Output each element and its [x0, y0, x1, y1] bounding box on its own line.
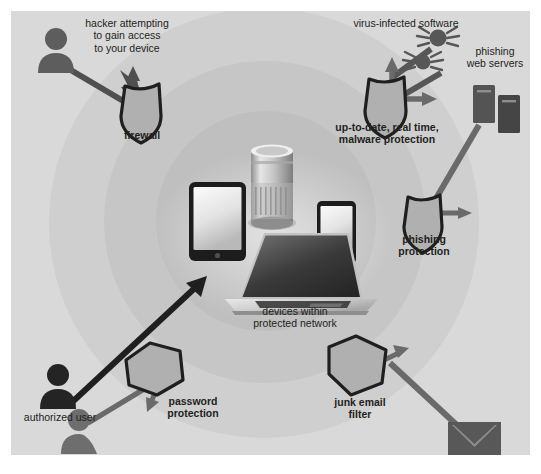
malware-deflect-arrowhead-2 — [422, 92, 437, 106]
deflected-arrowhead — [126, 66, 140, 81]
junk-email-filter-label: junk email filter — [322, 396, 398, 421]
authorized-user-label: authorized user — [17, 411, 103, 423]
malware-deflect-arrowhead-1 — [385, 57, 399, 72]
diagram-canvas: hacker attempting to gain access to your… — [0, 0, 541, 474]
smart-speaker-icon — [248, 145, 296, 231]
password-protection-label: password protection — [153, 395, 233, 420]
server-icon-2 — [498, 95, 520, 133]
spider-virus-body-1 — [430, 30, 447, 47]
spider-virus-body-2 — [416, 55, 431, 70]
phishing-protection-label: phishing protection — [383, 233, 465, 258]
firewall-label: firewall — [104, 129, 180, 141]
virus-infected-software-label: virus-infected software — [331, 17, 481, 29]
hacker-label: hacker attempting to gain access to your… — [63, 17, 191, 54]
authorized-user-line — [68, 286, 197, 406]
diagram-background: hacker attempting to gain access to your… — [11, 11, 530, 455]
envelope-icon — [448, 422, 501, 455]
hacker-attack-line — [69, 69, 130, 105]
tablet-icon — [189, 182, 246, 261]
phishing-protection-group — [404, 85, 520, 253]
password-protection-shield-icon — [126, 343, 183, 395]
devices-within-protected-network-label: devices within protected network — [239, 305, 351, 330]
authorized-user-person-icon — [40, 364, 76, 409]
phishing-web-servers-label: phishing web servers — [454, 45, 530, 70]
spam-attack-line — [390, 363, 460, 428]
server-icon-1 — [473, 85, 495, 123]
junk-email-filter-shield-icon — [329, 336, 386, 395]
phishing-deflect-arrowhead — [458, 207, 472, 219]
malware-protection-label: up-to-date, real time, malware protectio… — [322, 121, 452, 146]
